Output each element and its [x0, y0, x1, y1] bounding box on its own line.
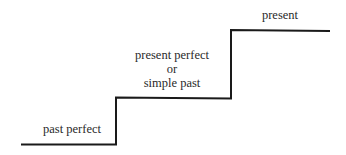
label-line: past perfect	[43, 122, 101, 136]
label-line: present perfect	[122, 48, 222, 62]
step-label-present-perfect-or-simple-past: present perfect or simple past	[122, 48, 222, 90]
label-line: simple past	[122, 76, 222, 90]
step-label-present: present	[250, 8, 310, 22]
step-label-past-perfect: past perfect	[32, 122, 112, 136]
label-line: present	[262, 8, 298, 22]
label-line: or	[122, 62, 222, 76]
